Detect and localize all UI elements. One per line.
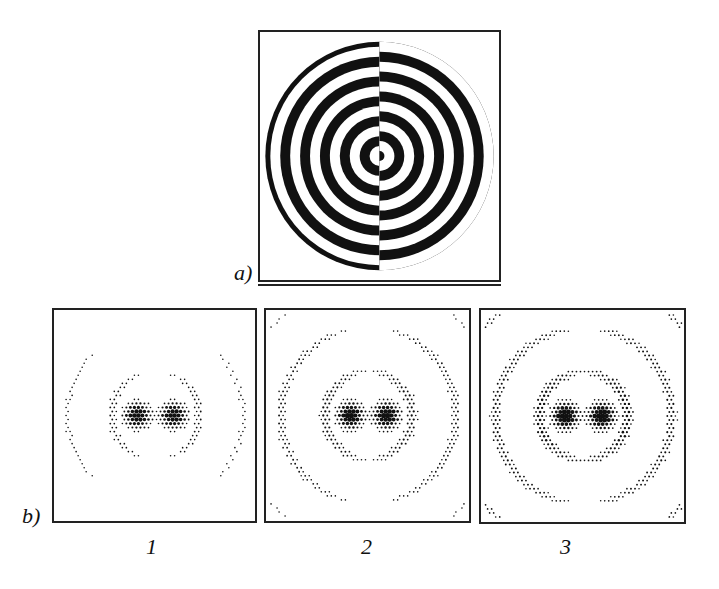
subpanel-2-number: 2 [361, 536, 372, 558]
subpanel-1-number: 1 [146, 536, 157, 558]
intensity-map-2 [266, 310, 469, 521]
zone-plate-image [260, 32, 499, 280]
intensity-map-1 [54, 310, 255, 521]
panel-a-zone-plate [258, 30, 501, 282]
panel-b3-intensity [479, 308, 686, 524]
panel-b-label: b) [22, 505, 40, 527]
panel-b1-intensity [52, 308, 257, 523]
panel-b2-intensity [264, 308, 471, 523]
panel-a-label: a) [234, 262, 252, 284]
subpanel-3-number: 3 [560, 536, 571, 558]
intensity-map-3 [481, 310, 684, 522]
panel-a-bottom-rule [258, 284, 501, 286]
